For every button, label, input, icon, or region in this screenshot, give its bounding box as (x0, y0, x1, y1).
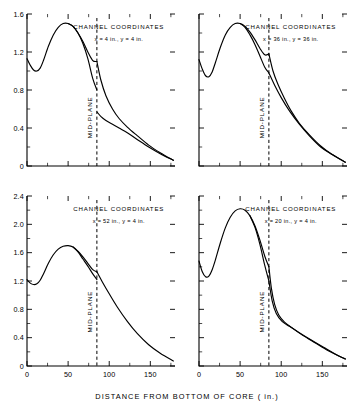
curve-upper-branch (199, 209, 269, 277)
x-tick-label: 150 (316, 370, 329, 379)
midplane-label: MID-PLANE (86, 291, 93, 333)
four-panel-line-chart: 00.40.81.21.6MID-PLANECHANNEL COORDINATE… (0, 0, 355, 417)
figure-container: 00.40.81.21.6MID-PLANECHANNEL COORDINATE… (0, 0, 355, 417)
y-tick-label: 2.4 (13, 192, 24, 201)
y-tick-label: 0 (20, 162, 24, 171)
y-tick-label: 0.4 (13, 333, 24, 342)
y-tick-label: 1.2 (13, 277, 24, 286)
curve-post-midplane-lower (269, 281, 345, 359)
panel-coordinates: x = 20 in., y = 4 in. (265, 218, 317, 224)
y-tick-label: 2.0 (13, 220, 24, 229)
curve-upper-branch (27, 246, 97, 285)
curve-upper-branch (199, 23, 269, 77)
curve-post-midplane-upper (97, 62, 173, 161)
panel-title: CHANNEL COORDINATES (245, 205, 336, 212)
y-tick-label: 0.8 (13, 86, 24, 95)
curve-lower-branch-left (240, 24, 269, 73)
curve-lower-branch-left (250, 216, 269, 281)
curve-upper-branch (27, 23, 97, 71)
curve-lower-branch-left (73, 247, 97, 280)
x-tick-label: 50 (236, 370, 244, 379)
y-tick-label: 1.2 (13, 48, 24, 57)
curve-post-midplane (97, 272, 173, 361)
y-tick-label: 1.6 (13, 10, 24, 19)
panel-title: CHANNEL COORDINATES (245, 23, 336, 30)
y-tick-label: 0.4 (13, 124, 24, 133)
panel-top-left: 00.40.81.21.6MID-PLANE (13, 10, 175, 171)
panel-title: CHANNEL COORDINATES (73, 205, 164, 212)
panel-title: CHANNEL COORDINATES (73, 23, 164, 30)
y-tick-label: 0.8 (13, 305, 24, 314)
panel-coordinates: x = 52 in., y = 4 in. (93, 218, 145, 224)
x-tick-label: 100 (103, 370, 116, 379)
panel-coordinates: x = 4 in., y = 4 in. (94, 36, 143, 42)
curve-lower-branch-left (68, 24, 97, 91)
x-axis-title: DISTANCE FROM BOTTOM OF CORE ( in.) (95, 392, 278, 401)
x-tick-label: 100 (275, 370, 288, 379)
y-tick-label: 1.6 (13, 248, 24, 257)
curve-post-midplane-upper (269, 267, 345, 359)
x-tick-label: 0 (25, 370, 29, 379)
panel-coordinates: x = 36 in., y = 36 in. (263, 36, 319, 42)
x-tick-label: 50 (64, 370, 72, 379)
midplane-label: MID-PLANE (86, 96, 93, 138)
curve-post-midplane-lower (269, 73, 345, 162)
curve-post-midplane-upper (269, 54, 345, 162)
midplane-label: MID-PLANE (258, 96, 265, 138)
x-tick-label: 150 (144, 370, 157, 379)
midplane-label: MID-PLANE (258, 291, 265, 333)
curve-post-midplane-lower (97, 112, 173, 160)
y-tick-label: 0 (20, 362, 24, 371)
x-tick-label: 0 (197, 370, 201, 379)
